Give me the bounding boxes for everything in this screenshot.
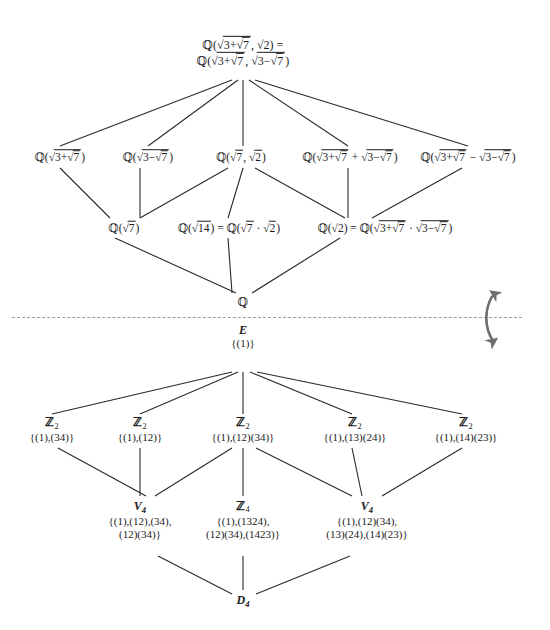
group-node-bottom-name: D4 bbox=[237, 593, 250, 609]
group-node-r3-2-name: V4 bbox=[326, 499, 407, 515]
field-node-r2-2: ℚ(√7, √2) bbox=[216, 150, 266, 165]
group-node-r2-1-elements: {(1),(12)} bbox=[118, 432, 162, 445]
group-node-r2-2-name: ℤ2 bbox=[212, 415, 275, 431]
group-node-r3-0-line2: (12)(34)} bbox=[108, 528, 171, 541]
group-node-r3-2-line2: (13)(24),(14)(23)} bbox=[326, 528, 407, 541]
group-node-r3-1-name: ℤ4 bbox=[206, 499, 280, 515]
group-node-r3-0-line1: {(1),(12),(34), bbox=[108, 515, 171, 528]
group-node-r2-4: ℤ2 {(1),(14)(23)} bbox=[435, 415, 498, 444]
group-node-bottom: D4 bbox=[237, 593, 250, 609]
group-node-r2-3-elements: {(1),(13)(24)} bbox=[324, 432, 387, 445]
group-node-r2-4-name: ℤ2 bbox=[435, 415, 498, 431]
group-node-r3-1: ℤ4 {(1),(1324), (12)(34),(1423)} bbox=[206, 499, 280, 541]
group-node-r2-2-elements: {(1),(12)(34)} bbox=[212, 432, 275, 445]
field-node-r3-0: ℚ(√7) bbox=[109, 221, 140, 236]
group-node-r3-0: V4 {(1),(12),(34), (12)(34)} bbox=[108, 499, 171, 541]
group-node-r2-0-elements: {(1),(34)} bbox=[30, 432, 74, 445]
field-node-r3-2: ℚ(√2) = ℚ(√3+√7 · √3−√7) bbox=[318, 220, 453, 236]
field-node-top-line1: ℚ(√3+√7, √2) = bbox=[197, 36, 289, 52]
group-node-top-name: E bbox=[231, 323, 254, 337]
group-node-r2-3: ℤ2 {(1),(13)(24)} bbox=[324, 415, 387, 444]
field-node-top-line2: ℚ(√3+√7, √3−√7) bbox=[197, 52, 289, 68]
group-node-r3-1-line1: {(1),(1324), bbox=[206, 515, 280, 528]
group-node-r3-2: V4 {(1),(12)(34), (13)(24),(14)(23)} bbox=[326, 499, 407, 541]
group-node-r3-0-name: V4 bbox=[108, 499, 171, 515]
field-node-r2-4: ℚ(√3+√7 − √3−√7) bbox=[420, 149, 515, 165]
group-node-r2-2: ℤ2 {(1),(12)(34)} bbox=[212, 415, 275, 444]
group-node-r3-1-line2: (12)(34),(1423)} bbox=[206, 528, 280, 541]
group-node-top-elements: {(1)} bbox=[231, 338, 254, 351]
group-node-top: E {(1)} bbox=[231, 323, 254, 350]
field-node-r2-0: ℚ(√3+√7) bbox=[35, 149, 85, 165]
field-node-r2-1: ℚ(√3−√7) bbox=[123, 149, 173, 165]
galois-lattice-diagram: ℚ(√3+√7, √2) = ℚ(√3+√7, √3−√7) ℚ(√3+√7) … bbox=[0, 0, 550, 630]
field-node-bottom: ℚ bbox=[238, 295, 248, 309]
field-node-r3-1: ℚ(√14) = ℚ(√7 · √2) bbox=[178, 221, 280, 236]
group-node-r2-3-name: ℤ2 bbox=[324, 415, 387, 431]
group-node-r2-1: ℤ2 {(1),(12)} bbox=[118, 415, 162, 444]
field-node-top: ℚ(√3+√7, √2) = ℚ(√3+√7, √3−√7) bbox=[197, 36, 289, 68]
group-node-r2-1-name: ℤ2 bbox=[118, 415, 162, 431]
group-node-r2-0: ℤ2 {(1),(34)} bbox=[30, 415, 74, 444]
group-node-r3-2-line1: {(1),(12)(34), bbox=[326, 515, 407, 528]
dashed-separator bbox=[12, 317, 522, 318]
field-node-r2-3: ℚ(√3+√7 + √3−√7) bbox=[302, 149, 397, 165]
group-node-r2-4-elements: {(1),(14)(23)} bbox=[435, 432, 498, 445]
group-node-r2-0-name: ℤ2 bbox=[30, 415, 74, 431]
galois-correspondence-arrow bbox=[482, 282, 526, 354]
